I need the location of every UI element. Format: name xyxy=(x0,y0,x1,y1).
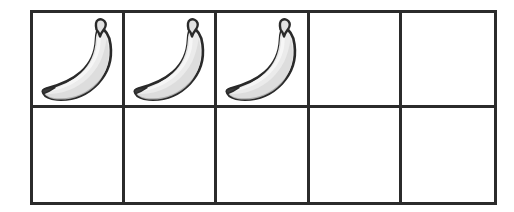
cell-counter-slot xyxy=(217,13,306,105)
cell-counter-slot xyxy=(125,13,214,105)
cell-counter-slot xyxy=(33,13,122,105)
banana-icon xyxy=(220,15,304,103)
ten-frame-cell-r1c2[interactable] xyxy=(125,13,217,108)
ten-frame-cell-r2c2[interactable] xyxy=(125,108,217,203)
ten-frame-cell-r2c5[interactable] xyxy=(402,108,494,203)
banana-icon xyxy=(36,15,120,103)
diagram-canvas xyxy=(0,0,514,212)
ten-frame-cell-r1c3[interactable] xyxy=(217,13,309,108)
banana-icon xyxy=(128,15,212,103)
ten-frame-grid xyxy=(30,10,497,205)
ten-frame-cell-r2c1[interactable] xyxy=(33,108,125,203)
ten-frame-cell-r2c4[interactable] xyxy=(310,108,402,203)
ten-frame-cell-r2c3[interactable] xyxy=(217,108,309,203)
ten-frame-cell-r1c5[interactable] xyxy=(402,13,494,108)
ten-frame-cell-r1c1[interactable] xyxy=(33,13,125,108)
ten-frame-cell-r1c4[interactable] xyxy=(310,13,402,108)
